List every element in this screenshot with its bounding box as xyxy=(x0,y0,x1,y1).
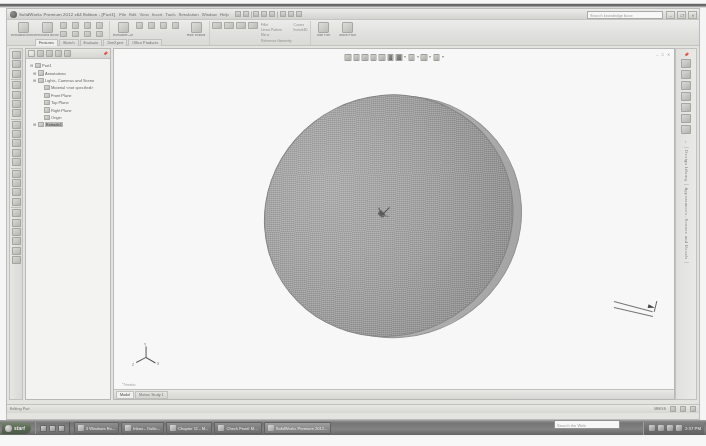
units-icon[interactable] xyxy=(680,406,686,412)
hide-show-icon[interactable] xyxy=(12,139,21,147)
mass-properties-icon[interactable] xyxy=(12,237,21,245)
update-icon[interactable] xyxy=(676,425,682,431)
task-pane-pin-icon[interactable]: 📌 xyxy=(684,52,689,57)
swept-boss-icon[interactable] xyxy=(60,22,67,29)
custom-properties-icon[interactable] xyxy=(681,125,691,134)
tree-node-material[interactable]: Material <not specified> xyxy=(29,84,108,91)
tree-node-top-plane[interactable]: Top Plane xyxy=(29,99,108,106)
tree-node-front-plane[interactable]: Front Plane xyxy=(29,92,108,99)
property-manager-tab[interactable] xyxy=(37,50,44,57)
doc-tab-motion-study[interactable]: Motion Study 1 xyxy=(135,391,168,399)
task-button-word[interactable]: Chapter 11 - M... xyxy=(166,422,212,434)
view-orientation-icon[interactable] xyxy=(12,121,21,129)
fillet-icon[interactable] xyxy=(212,22,222,29)
boundary-cut-icon[interactable] xyxy=(172,22,179,29)
previous-view-icon[interactable] xyxy=(12,100,21,108)
tree-node-extrude1[interactable]: ⊞ Extrude1 xyxy=(29,121,108,128)
view-palette-icon[interactable] xyxy=(681,103,691,112)
tree-twisty[interactable]: ⊞ xyxy=(32,78,37,83)
antivirus-icon[interactable] xyxy=(667,425,673,431)
tree-twisty[interactable]: ⊞ xyxy=(32,71,37,76)
extruded-boss-base-button[interactable]: Extruded Boss/Base xyxy=(12,21,34,37)
graphics-area[interactable]: ▾ ▾ ▾ ▾ – □ ✕ xyxy=(113,48,675,400)
close-button[interactable]: ✕ xyxy=(688,11,697,19)
shell-icon[interactable] xyxy=(72,31,79,38)
zoom-to-fit-icon[interactable] xyxy=(12,60,21,68)
knowledge-base-search-input[interactable]: Search knowledge base xyxy=(587,11,663,19)
dimxpert-manager-tab[interactable] xyxy=(55,50,62,57)
instant3d-label[interactable]: Instant3D xyxy=(294,28,308,32)
taskbar-clock[interactable]: 2:37 PM xyxy=(685,426,701,431)
overlay-icon[interactable] xyxy=(690,406,696,412)
media-player-icon[interactable] xyxy=(58,425,65,432)
cylindrical-disc-part[interactable] xyxy=(222,48,576,389)
mirror-label[interactable]: Mirror xyxy=(261,33,292,37)
curves-label[interactable]: Curves xyxy=(294,23,308,27)
menu-item-view[interactable]: View xyxy=(140,12,149,17)
hidden-lines-icon[interactable] xyxy=(12,198,21,206)
minimize-button[interactable]: – xyxy=(666,11,675,19)
auto-hide-pin-icon[interactable]: 📌 xyxy=(103,51,108,56)
move-face-button[interactable]: Move Face xyxy=(337,21,359,37)
appearance-chevron-down-icon[interactable]: ▾ xyxy=(417,55,419,59)
shaded-icon[interactable] xyxy=(12,179,21,187)
solidworks-resources-icon[interactable] xyxy=(681,59,691,68)
pan-icon[interactable] xyxy=(12,91,21,99)
task-button-browser[interactable]: Check Feed: M... xyxy=(214,422,261,434)
network-icon[interactable] xyxy=(649,425,655,431)
menu-item-insert[interactable]: Insert xyxy=(152,12,163,17)
swept-cut-icon[interactable] xyxy=(148,22,155,29)
internet-explorer-icon[interactable] xyxy=(49,425,56,432)
undo-icon[interactable] xyxy=(269,11,275,17)
new-document-icon[interactable] xyxy=(235,11,241,17)
section-view-icon[interactable] xyxy=(370,54,377,61)
reference-geometry-icon[interactable] xyxy=(248,22,258,29)
menu-item-file[interactable]: File xyxy=(119,12,126,17)
appearances-icon[interactable] xyxy=(681,114,691,123)
tab-sketch[interactable]: Sketch xyxy=(59,39,79,46)
tree-node-right-plane[interactable]: Right Plane xyxy=(29,106,108,113)
menu-item-help[interactable]: Help xyxy=(220,12,229,17)
file-explorer-icon[interactable] xyxy=(681,81,691,90)
apply-scene-icon[interactable] xyxy=(421,54,428,61)
previous-view-icon[interactable] xyxy=(362,54,369,61)
revolved-cut-icon[interactable] xyxy=(136,22,143,29)
rib-icon[interactable] xyxy=(96,22,103,29)
task-button-outlook[interactable]: Inbox - Outlo... xyxy=(121,422,164,434)
wrap-icon[interactable] xyxy=(84,31,91,38)
view-orientation-icon[interactable] xyxy=(379,54,386,61)
edit-appearance-icon[interactable] xyxy=(408,54,415,61)
display-manager-tab[interactable] xyxy=(64,50,71,57)
show-desktop-icon[interactable] xyxy=(40,425,47,432)
tab-dimxpert[interactable]: DimXpert xyxy=(103,39,127,46)
search-icon[interactable] xyxy=(681,92,691,101)
task-button-solidworks[interactable]: SolidWorks Premium 2012... xyxy=(264,422,332,434)
edit-part-button[interactable]: Edit Part xyxy=(313,21,335,37)
configuration-manager-tab[interactable] xyxy=(46,50,53,57)
tab-features[interactable]: Features xyxy=(35,39,58,46)
display-style-icon[interactable] xyxy=(387,54,394,61)
graphics-window-controls[interactable]: – □ ✕ xyxy=(656,52,671,57)
hole-wizard-button[interactable]: Hole Wizard xyxy=(185,21,207,37)
edit-appearance-icon[interactable] xyxy=(12,149,21,157)
zoom-area-icon[interactable] xyxy=(12,70,21,78)
mirror-icon[interactable] xyxy=(236,22,246,29)
dome-icon[interactable] xyxy=(96,31,103,38)
tree-node-lights-cameras-scene[interactable]: ⊞ Lights, Cameras and Scene xyxy=(29,77,108,84)
menu-item-window[interactable]: Window xyxy=(202,12,217,17)
lofted-boss-icon[interactable] xyxy=(72,22,79,29)
boundary-boss-icon[interactable] xyxy=(84,22,91,29)
menu-item-tools[interactable]: Tools xyxy=(166,12,176,17)
draft-icon[interactable] xyxy=(60,31,67,38)
apply-scene-icon[interactable] xyxy=(12,158,21,166)
measure-icon[interactable] xyxy=(12,228,21,236)
status-units[interactable]: MMGS xyxy=(654,407,666,411)
zoom-to-fit-icon[interactable] xyxy=(345,54,352,61)
task-button-explorer[interactable]: 3 Windows Ex... xyxy=(74,422,119,434)
fillet-label[interactable]: Fillet xyxy=(261,23,292,27)
hide-show-icon[interactable] xyxy=(396,54,403,61)
tree-node-part1[interactable]: ⊟ Part1 xyxy=(29,62,108,69)
print-icon[interactable] xyxy=(261,11,267,17)
taskbar-web-search-input[interactable]: Search the Web xyxy=(554,420,620,429)
open-document-icon[interactable] xyxy=(243,11,249,17)
